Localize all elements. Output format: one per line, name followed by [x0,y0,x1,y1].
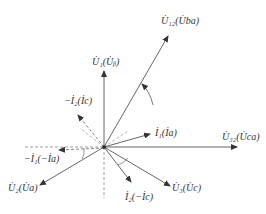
rotation-arrow-icon [142,84,153,105]
vector-i2 [104,147,131,182]
label-u2: U̇₂(U̇a) [8,183,38,193]
angle-arc-left [82,148,84,159]
phasor-svg [0,0,266,214]
phasor-diagram: U̇₁(U̇ᵦ) U̇₁₂(U̇ba) U̇₃₂(U̇ca) İ₁(İa) U̇… [0,0,266,214]
label-u12: U̇₁₂(U̇ba) [161,16,199,26]
vector-u3 [104,147,170,186]
label-i1: İ₁(İa) [155,128,177,138]
angle-arc-lower [118,158,128,165]
label-u3: U̇₃(U̇c) [172,183,201,193]
vector-i1 [104,134,150,147]
label-minus-i1: −İ₁(−İa) [24,154,59,164]
origin-dot [102,145,106,149]
label-u32: U̇₃₂(U̇ca) [222,132,260,142]
label-u1: U̇₁(U̇ᵦ) [92,57,119,67]
vector-minus-i2 [78,115,104,147]
dashed-upper-left-line [80,128,104,147]
label-minus-i2: −İ₂(İc) [64,96,92,106]
label-i2: İ₂(−İc) [125,192,153,202]
dashed-upper-right-line [104,131,128,147]
vector-minus-i1 [59,148,104,150]
